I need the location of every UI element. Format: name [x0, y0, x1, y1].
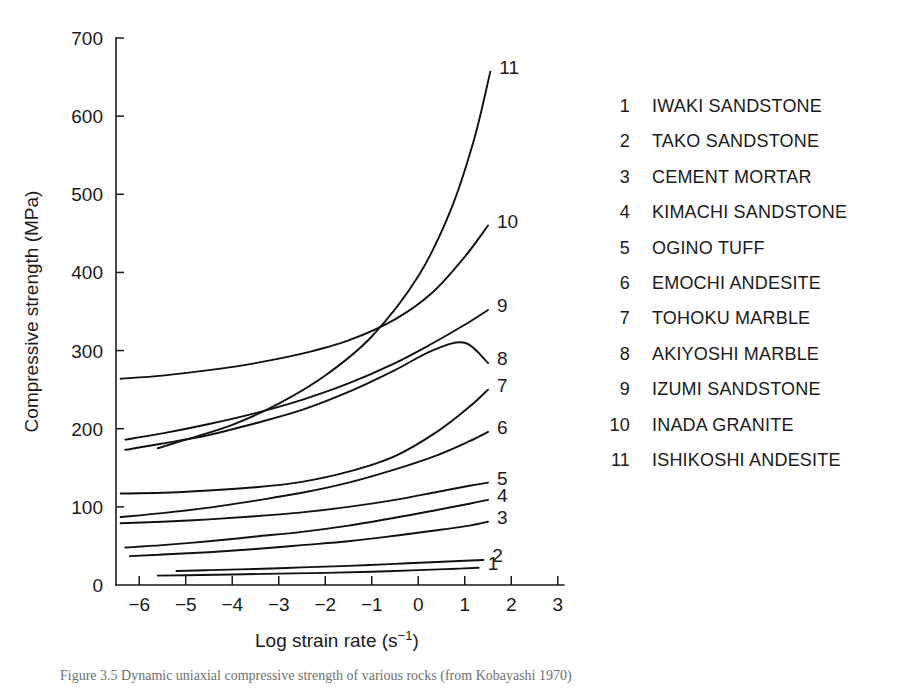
legend-item-number: 9: [596, 379, 630, 400]
legend-item-number: 10: [596, 415, 630, 436]
curve-end-label-3: 3: [497, 507, 508, 528]
curve-end-label-2: 2: [492, 545, 503, 566]
curve-end-label-5: 5: [497, 468, 508, 489]
x-tick-label: −5: [175, 594, 197, 615]
legend-item: 2 TAKO SANDSTONE: [596, 131, 896, 166]
y-tick-label: 300: [71, 341, 103, 362]
curve-end-label-8: 8: [497, 348, 508, 369]
x-tick-label: −1: [361, 594, 383, 615]
y-tick-label: 0: [92, 575, 103, 596]
legend-item: 1 IWAKI SANDSTONE: [596, 96, 896, 131]
legend-item-label: IZUMI SANDSTONE: [652, 379, 821, 400]
legend-item-label: AKIYOSHI MARBLE: [652, 344, 819, 365]
curve-end-label-11: 11: [499, 57, 519, 78]
legend-item-label: IWAKI SANDSTONE: [652, 96, 822, 117]
legend-item-label: OGINO TUFF: [652, 238, 765, 259]
legend: 1 IWAKI SANDSTONE 2 TAKO SANDSTONE 3 CEM…: [596, 96, 896, 485]
legend-item-label: EMOCHI ANDESITE: [652, 273, 821, 294]
y-tick-label: 700: [71, 28, 103, 49]
legend-item: 3 CEMENT MORTAR: [596, 167, 896, 202]
legend-item: 10 INADA GRANITE: [596, 415, 896, 450]
x-tick-label: 2: [506, 594, 517, 615]
legend-item: 5 OGINO TUFF: [596, 238, 896, 273]
curve-1: [158, 568, 479, 576]
x-tick-label: 1: [459, 594, 470, 615]
curve-end-label-7: 7: [497, 375, 508, 396]
y-tick-label: 200: [71, 419, 103, 440]
x-tick-label: 3: [552, 594, 563, 615]
y-tick-label: 100: [71, 497, 103, 518]
curve-end-label-6: 6: [497, 417, 508, 438]
legend-item-label: INADA GRANITE: [652, 415, 794, 436]
legend-item-label: TAKO SANDSTONE: [652, 131, 819, 152]
curve-end-label-9: 9: [497, 295, 508, 316]
legend-item: 4 KIMACHI SANDSTONE: [596, 202, 896, 237]
legend-item-number: 7: [596, 308, 630, 329]
x-tick-label: −6: [128, 594, 150, 615]
legend-item: 6 EMOCHI ANDESITE: [596, 273, 896, 308]
legend-item: 11 ISHIKOSHI ANDESITE: [596, 450, 896, 485]
chart-tick-labels: 0100200300400500600700−6−5−4−3−2−10123Lo…: [21, 28, 563, 651]
curve-5: [121, 483, 488, 524]
curve-end-label-10: 10: [497, 211, 518, 232]
legend-item-number: 3: [596, 167, 630, 188]
legend-item-label: KIMACHI SANDSTONE: [652, 202, 847, 223]
curve-3: [130, 522, 488, 556]
legend-item-number: 4: [596, 202, 630, 223]
legend-item-number: 8: [596, 344, 630, 365]
legend-item-label: TOHOKU MARBLE: [652, 308, 810, 329]
legend-item: 9 IZUMI SANDSTONE: [596, 379, 896, 414]
legend-item-number: 5: [596, 238, 630, 259]
legend-item-number: 11: [596, 450, 630, 471]
legend-item-label: ISHIKOSHI ANDESITE: [652, 450, 841, 471]
curve-4: [125, 500, 488, 548]
figure-container: 0100200300400500600700−6−5−4−3−2−10123Lo…: [0, 0, 904, 688]
x-axis-title: Log strain rate (s−1): [255, 628, 419, 651]
x-tick-label: −2: [314, 594, 336, 615]
legend-item-number: 6: [596, 273, 630, 294]
curve-6: [121, 432, 488, 517]
legend-item: 7 TOHOKU MARBLE: [596, 308, 896, 343]
curve-9: [125, 310, 488, 440]
figure-caption: Figure 3.5 Dynamic uniaxial compressive …: [60, 668, 860, 684]
x-tick-label: −4: [221, 594, 243, 615]
chart-curves: [121, 72, 491, 576]
legend-item-number: 2: [596, 131, 630, 152]
y-tick-label: 400: [71, 262, 103, 283]
x-tick-label: 0: [413, 594, 424, 615]
legend-item: 8 AKIYOSHI MARBLE: [596, 344, 896, 379]
y-tick-label: 500: [71, 184, 103, 205]
y-axis-title: Compressive strength (MPa): [21, 191, 42, 433]
legend-item-label: CEMENT MORTAR: [652, 167, 812, 188]
x-tick-label: −3: [268, 594, 290, 615]
y-tick-label: 600: [71, 106, 103, 127]
legend-item-number: 1: [596, 96, 630, 117]
